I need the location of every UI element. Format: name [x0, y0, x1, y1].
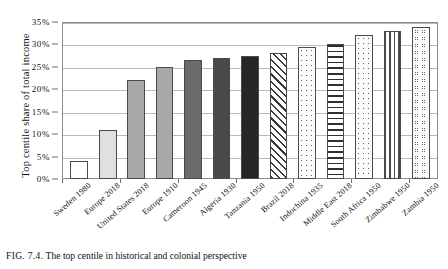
y-axis-tick-label: 0% [37, 174, 50, 184]
bar-slot [293, 22, 321, 179]
y-axis-tick-label: 5% [37, 152, 50, 162]
y-axis-tick-mark [52, 44, 58, 45]
bar [99, 130, 117, 179]
bar [184, 60, 202, 179]
bar-series [62, 22, 438, 179]
bar [355, 35, 373, 179]
bar-slot [321, 22, 349, 179]
x-axis-tick-labels: Sweden 1980Europe 2018United States 2018… [62, 181, 438, 245]
bar-slot [378, 22, 406, 179]
bar [327, 44, 345, 179]
y-axis-tick-mark [52, 156, 58, 157]
bar-slot [179, 22, 207, 179]
y-axis-tick-label: 30% [32, 39, 50, 49]
y-axis-tick-mark [52, 66, 58, 67]
bar-slot [207, 22, 235, 179]
y-axis-tick-mark [52, 134, 58, 135]
y-axis-tick-label: 15% [32, 107, 50, 117]
y-axis-tick-label: 20% [32, 84, 50, 94]
bar [127, 80, 145, 179]
bar [241, 56, 259, 179]
y-axis-tick-labels: 0%5%10%15%20%25%30%35% [0, 22, 60, 179]
x-axis-tick-label: United States 2018 [96, 181, 152, 231]
figure-caption: FIG. 7.4. The top centile in historical … [6, 250, 247, 261]
y-axis-tick-mark [52, 179, 58, 180]
bar [70, 161, 88, 179]
y-axis-tick-mark [52, 111, 58, 112]
y-axis-tick-label: 10% [32, 129, 50, 139]
bar-slot [236, 22, 264, 179]
y-axis-tick-mark [52, 89, 58, 90]
bar [156, 67, 174, 179]
bar-slot [122, 22, 150, 179]
y-axis-tick-label: 35% [32, 17, 50, 27]
figure-number: FIG. 7.4. [6, 250, 43, 261]
bar [412, 27, 430, 180]
bar [270, 53, 288, 179]
bar-slot [264, 22, 292, 179]
y-axis-tick-mark [52, 22, 58, 23]
bar [384, 31, 402, 179]
bar-slot [150, 22, 178, 179]
bar [213, 58, 231, 179]
figure-container: Top centile share of total income 0%5%10… [0, 0, 448, 269]
bar [298, 47, 316, 179]
bar-slot [93, 22, 121, 179]
bar-slot [65, 22, 93, 179]
bar-slot [350, 22, 378, 179]
y-axis-tick-label: 25% [32, 62, 50, 72]
x-axis-tick-label: South Africa 1950 [329, 181, 383, 229]
bar-slot [407, 22, 435, 179]
figure-caption-text: The top centile in historical and coloni… [46, 250, 247, 261]
